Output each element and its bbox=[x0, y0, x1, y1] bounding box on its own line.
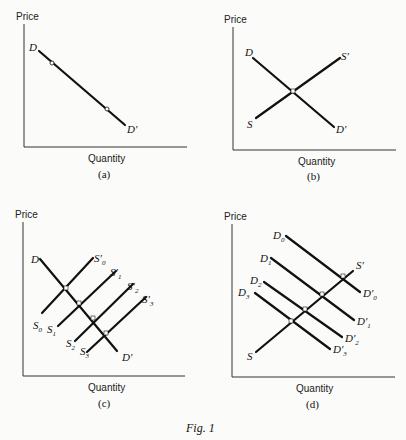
label-S2-prime: S′2 bbox=[127, 280, 139, 295]
equilibrium-point bbox=[104, 331, 108, 335]
y-axis-label: Price bbox=[16, 11, 39, 22]
label-S: S bbox=[247, 118, 253, 130]
equilibrium-point bbox=[91, 316, 95, 320]
point-marker bbox=[105, 107, 109, 111]
label-S-prime: S′ bbox=[341, 50, 350, 62]
label-D2: D2 bbox=[249, 274, 262, 289]
label-D-prime: D′ bbox=[126, 123, 138, 135]
label-D0: D0 bbox=[272, 229, 285, 244]
demand-curve-d0 bbox=[286, 236, 360, 292]
label-S3-prime: S′3 bbox=[142, 293, 154, 308]
panel-a: Price D D′ Quantity (a) bbox=[16, 11, 187, 181]
panel-caption: (a) bbox=[98, 168, 111, 181]
equilibrium-point bbox=[291, 89, 295, 93]
figure-caption: Fig. 1 bbox=[185, 421, 215, 435]
y-axis-label: Price bbox=[15, 209, 38, 220]
label-D-prime: D′ bbox=[121, 351, 133, 363]
label-S1: S1 bbox=[47, 323, 56, 338]
equilibrium-point bbox=[303, 307, 307, 311]
panel-caption: (d) bbox=[306, 398, 319, 411]
equilibrium-point bbox=[320, 292, 324, 296]
label-D: D bbox=[28, 41, 37, 53]
label-D: D bbox=[244, 46, 253, 58]
equilibrium-point bbox=[77, 301, 81, 305]
equilibrium-point bbox=[64, 286, 68, 290]
label-D: D bbox=[30, 253, 39, 265]
point-marker bbox=[50, 61, 54, 65]
label-D1-prime: D′1 bbox=[356, 315, 371, 330]
x-axis-label: Quantity bbox=[296, 383, 333, 394]
supply-curve bbox=[256, 58, 340, 118]
y-axis-label: Price bbox=[224, 211, 247, 222]
panel-b: Price D D′ S S′ Quantity (b) bbox=[224, 14, 396, 183]
label-S0: S0 bbox=[33, 319, 43, 334]
supply-curve-s1 bbox=[58, 271, 116, 326]
panel-c: Price D D′ S′0 S′1 S′2 S′3 S0 S1 S2 S3 Q… bbox=[15, 209, 185, 410]
figure-canvas: Price D D′ Quantity (a) Price D D′ S S′ … bbox=[0, 0, 406, 440]
x-axis-label: Quantity bbox=[88, 382, 125, 393]
y-axis-label: Price bbox=[224, 14, 247, 25]
panel-caption: (b) bbox=[307, 170, 320, 183]
label-S-prime: S′ bbox=[356, 259, 365, 271]
panel-d: Price D0 D1 D2 D3 D′0 D′1 D′2 D′3 S S′ Q… bbox=[224, 211, 395, 411]
label-D3-prime: D′3 bbox=[332, 343, 347, 358]
label-S2: S2 bbox=[66, 337, 76, 352]
panel-caption: (c) bbox=[98, 397, 111, 410]
equilibrium-point bbox=[341, 274, 345, 278]
label-S1-prime: S′1 bbox=[110, 266, 121, 281]
x-axis-label: Quantity bbox=[88, 153, 125, 164]
equilibrium-point bbox=[289, 319, 293, 323]
label-S3: S3 bbox=[80, 345, 90, 360]
label-S0-prime: S′0 bbox=[94, 252, 106, 267]
x-axis-label: Quantity bbox=[298, 156, 335, 167]
label-D0-prime: D′0 bbox=[362, 287, 377, 302]
label-S: S bbox=[247, 350, 253, 362]
label-D-prime: D′ bbox=[335, 123, 347, 135]
demand-curve-d1 bbox=[271, 258, 354, 320]
supply-curve-s0 bbox=[42, 258, 93, 313]
label-D2-prime: D′2 bbox=[344, 332, 359, 347]
label-D3: D3 bbox=[237, 286, 250, 301]
label-D1: D1 bbox=[259, 252, 271, 267]
